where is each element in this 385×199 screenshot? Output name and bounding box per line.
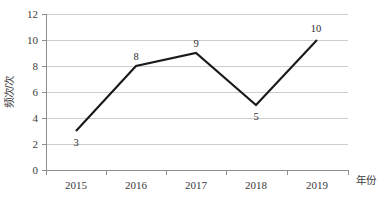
y-tick-label-4: 4 xyxy=(33,112,39,124)
x-tick-label-2018: 2018 xyxy=(245,179,268,191)
x-tick-label-2015: 2015 xyxy=(65,179,88,191)
y-tick-label-6: 6 xyxy=(33,86,39,98)
y-axis-title: 频次/次 xyxy=(3,75,15,109)
data-label-2017: 9 xyxy=(193,38,198,49)
y-tick-label-12: 12 xyxy=(27,8,38,20)
data-label-2015: 3 xyxy=(73,137,78,148)
x-tick-label-2016: 2016 xyxy=(125,179,148,191)
x-tick-label-2019: 2019 xyxy=(306,179,329,191)
x-tick-label-2017: 2017 xyxy=(185,179,208,191)
data-label-2016: 8 xyxy=(133,51,138,62)
data-label-2019: 10 xyxy=(311,23,322,34)
data-label-2018: 5 xyxy=(253,111,258,122)
x-axis-title: 年份 xyxy=(356,174,377,186)
y-tick-label-8: 8 xyxy=(33,60,39,72)
line-chart: 12 10 8 6 4 2 0 2015 2016 2017 2018 2019 xyxy=(0,0,385,199)
y-tick-label-2: 2 xyxy=(33,138,39,150)
chart-background xyxy=(0,0,385,199)
y-tick-label-10: 10 xyxy=(27,34,39,46)
y-tick-label-0: 0 xyxy=(33,164,39,176)
chart-canvas: 12 10 8 6 4 2 0 2015 2016 2017 2018 2019 xyxy=(0,0,385,199)
